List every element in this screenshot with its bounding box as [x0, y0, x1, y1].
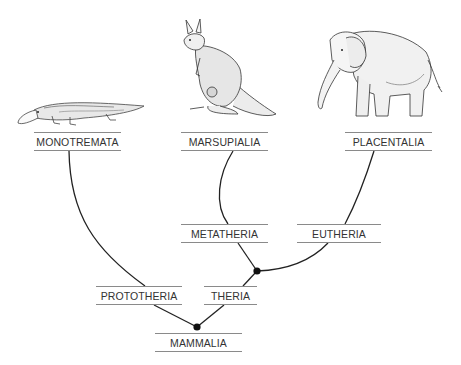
branch-placentalia-eutheria	[345, 151, 374, 224]
mammalia-node-dot	[193, 323, 200, 330]
branch-eutheria-theria	[257, 243, 328, 271]
node-marsupialia: MARSUPIALIA	[181, 132, 268, 151]
node-theria: THERIA	[204, 286, 257, 305]
branch-theria-mammalia	[197, 305, 224, 327]
kangaroo-illustration	[178, 14, 282, 122]
node-mammalia: MAMMALIA	[155, 333, 242, 352]
theria-node-dot	[253, 267, 260, 274]
branch-prototheria-mammalia	[154, 305, 197, 327]
elephant-illustration	[306, 22, 446, 122]
node-eutheria: EUTHERIA	[297, 224, 381, 243]
node-placentalia: PLACENTALIA	[345, 132, 432, 151]
phylogeny-diagram: MONOTREMATA MARSUPIALIA PLACENTALIA META…	[0, 0, 461, 365]
node-prototheria: PROTOTHERIA	[96, 286, 182, 305]
branch-metatheria-theria	[238, 243, 257, 271]
branch-marsupialia-metatheria	[219, 151, 233, 224]
node-monotremata: MONOTREMATA	[34, 132, 121, 151]
branch-monotremata-prototheria	[69, 151, 145, 286]
node-metatheria: METATHERIA	[181, 224, 268, 243]
platypus-illustration	[14, 96, 150, 130]
